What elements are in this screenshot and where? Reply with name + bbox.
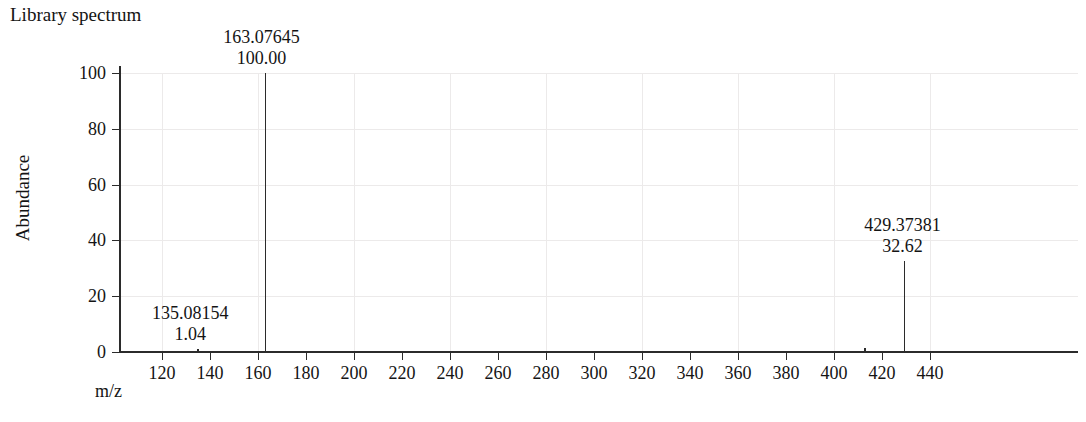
y-axis-line (119, 66, 121, 353)
peak-mz-value: 429.37381 (842, 215, 962, 236)
y-axis-title-label: Abundance (12, 155, 34, 242)
y-axis-tick-label: 0 (60, 343, 106, 361)
x-axis-tick (834, 352, 835, 360)
gridline-vertical (738, 73, 739, 352)
x-axis-tick (498, 352, 499, 360)
peak-mz-value: 135.08154 (130, 303, 250, 324)
x-axis-tick (162, 352, 163, 360)
peak-abundance-value: 32.62 (842, 236, 962, 257)
x-axis-tick (402, 352, 403, 360)
y-axis-tick (112, 129, 120, 130)
peak-label: 163.07645100.00 (201, 27, 321, 69)
gridline-vertical (834, 73, 835, 352)
gridline-vertical (930, 73, 931, 352)
peak-bar (197, 349, 199, 352)
y-axis-tick (112, 73, 120, 74)
gridline-vertical (642, 73, 643, 352)
peak-mz-value: 163.07645 (201, 27, 321, 48)
gridline-vertical (450, 73, 451, 352)
peak-label: 429.3738132.62 (842, 215, 962, 257)
y-axis-tick (112, 296, 120, 297)
y-axis-tick-label: 20 (60, 287, 106, 305)
gridline-vertical (546, 73, 547, 352)
y-axis-tick (112, 185, 120, 186)
x-axis-tick (882, 352, 883, 360)
y-axis-tick-label: 40 (60, 231, 106, 249)
peak-abundance-value: 100.00 (201, 48, 321, 69)
x-axis-tick (306, 352, 307, 360)
x-axis-tick (210, 352, 211, 360)
gridline-vertical (354, 73, 355, 352)
y-axis-title: Abundance (8, 68, 38, 328)
peak-label: 135.081541.04 (130, 303, 250, 345)
x-axis-tick-label: 440 (900, 363, 960, 383)
y-axis-tick-label: 60 (60, 176, 106, 194)
x-axis-tick (930, 352, 931, 360)
peak-bar (904, 261, 906, 352)
chart-title: Library spectrum (10, 4, 141, 26)
peak-bar (864, 348, 866, 352)
peak-abundance-value: 1.04 (130, 324, 250, 345)
x-axis-tick (594, 352, 595, 360)
x-axis-tick (546, 352, 547, 360)
x-axis-tick (642, 352, 643, 360)
x-axis-tick (450, 352, 451, 360)
peak-bar (265, 73, 267, 352)
y-axis-tick (112, 240, 120, 241)
y-axis-tick (112, 352, 120, 353)
y-axis-tick-label: 100 (60, 64, 106, 82)
x-axis-tick (690, 352, 691, 360)
x-axis-tick (354, 352, 355, 360)
x-axis-title: m/z (95, 381, 122, 402)
x-axis-tick (738, 352, 739, 360)
mass-spectrum-figure: Library spectrum Abundance m/z 020406080… (0, 0, 1086, 422)
x-axis-tick (786, 352, 787, 360)
x-axis-tick (258, 352, 259, 360)
gridline-vertical (258, 73, 259, 352)
y-axis-tick-label: 80 (60, 120, 106, 138)
